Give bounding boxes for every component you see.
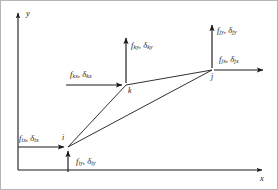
force-subscript-ix: ix	[21, 137, 25, 143]
displacement-subscript-jy: jy	[232, 29, 236, 35]
displacement-subscript-ky: ky	[147, 44, 152, 50]
node-label-i: i	[62, 134, 64, 142]
displacement-subscript-iy: iy	[91, 160, 95, 166]
edge-j-i	[68, 70, 212, 147]
force-subscript-jy: jy	[219, 29, 223, 35]
force-label-ix: fix, δix	[19, 134, 39, 143]
force-subscript-iy: iy	[78, 160, 82, 166]
force-subscript-jx: jx	[221, 58, 225, 64]
x-axis-label: x	[260, 174, 264, 183]
force-subscript-ky: ky	[133, 44, 138, 50]
force-label-kx: fkx, δkx	[70, 70, 92, 79]
edge-i-k	[68, 85, 126, 147]
force-label-jx: fjx, δjx	[219, 55, 239, 64]
force-label-ky: fky, δky	[131, 41, 153, 50]
y-axis-label: y	[26, 9, 30, 18]
figure-container: y x i k j fix, δix fiy, δiy fkx, δkx fky…	[0, 0, 278, 190]
node-label-j: j	[211, 73, 213, 81]
triangle-element	[68, 70, 212, 147]
force-subscript-kx: kx	[72, 73, 77, 79]
force-label-iy: fiy, δiy	[76, 157, 96, 166]
node-label-k: k	[128, 87, 132, 95]
displacement-subscript-kx: kx	[86, 73, 91, 79]
displacement-subscript-ix: ix	[34, 137, 38, 143]
displacement-subscript-jx: jx	[234, 58, 238, 64]
edge-k-j	[126, 70, 212, 85]
force-label-jy: fjy, δjy	[217, 26, 237, 35]
